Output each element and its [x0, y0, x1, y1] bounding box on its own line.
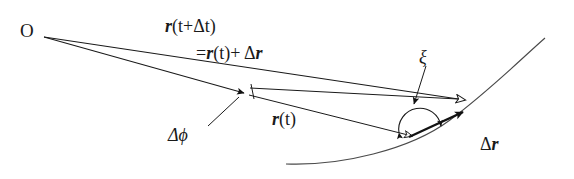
label-r-vector-glyph: r [165, 16, 172, 36]
label-dr-vector-glyph: r [492, 134, 499, 154]
label-origin: O [20, 21, 34, 40]
tick-mark [251, 84, 254, 99]
equals-sign: = [196, 43, 206, 63]
label-r-decomposition: =r(t)+ Δr [196, 44, 263, 62]
parallel-transport-line [250, 88, 458, 99]
delta-sign: Δ [480, 134, 492, 154]
label-rt-argument: (t) [279, 109, 296, 129]
label-r-argument-2: (t) [213, 43, 230, 63]
label-r-t-plus-delta-t: r(t+Δt) [165, 17, 216, 35]
angle-arc-xi [399, 108, 441, 133]
label-r-t: r(t) [272, 110, 296, 128]
label-r-vector-glyph-3: r [256, 43, 263, 63]
trajectory-curve [286, 38, 545, 164]
leader-line-xi [414, 66, 426, 104]
figure-canvas: O r(t+Δt) =r(t)+ Δr r(t) Δϕ ξ Δr [0, 0, 574, 179]
label-rt-vector-glyph: r [272, 109, 279, 129]
plus-delta-sign: + Δ [230, 43, 255, 63]
label-delta-phi: Δϕ [168, 126, 188, 144]
label-xi: ξ [419, 48, 427, 66]
label-delta-r: Δr [480, 135, 499, 153]
label-r-argument: (t+Δt) [172, 16, 216, 36]
leader-line-delta-phi [208, 97, 239, 126]
